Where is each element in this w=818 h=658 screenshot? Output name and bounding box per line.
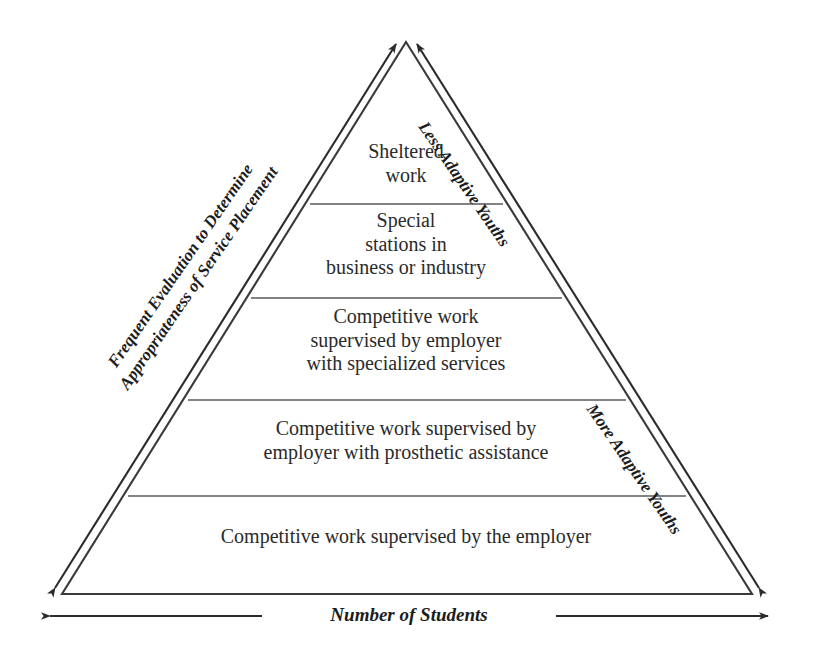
bottom-axis-label: Number of Students [0,604,818,626]
tier-label-sheltered-work: Sheltered work [306,140,506,187]
tier-label-competitive-employer: Competitive work supervised by the emplo… [112,525,700,549]
tier-label-competitive-prosthetic-assistance: Competitive work supervised by employer … [152,417,660,464]
tier-label-competitive-specialized-services: Competitive work supervised by employer … [202,305,610,376]
pyramid-diagram: Sheltered work Special stations in busin… [0,0,818,658]
